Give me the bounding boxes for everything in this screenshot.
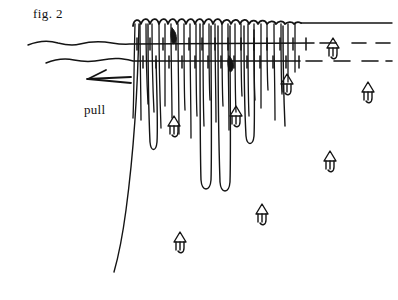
lower-horizontal-line	[46, 58, 392, 63]
flow-marker-6	[324, 151, 336, 172]
flow-marker-8	[174, 232, 186, 253]
figure-canvas: fig. 2 pull	[0, 0, 398, 300]
flow-marker-5	[362, 82, 374, 103]
pull-arrow	[87, 70, 131, 83]
flow-marker-1	[168, 116, 180, 137]
fringe-top-edge	[133, 19, 392, 26]
flow-marker-4	[327, 38, 339, 59]
flow-markers	[168, 38, 374, 253]
flow-marker-7	[256, 204, 268, 225]
figure-caption: fig. 2	[33, 7, 63, 20]
pull-label: pull	[84, 103, 105, 116]
figure-drawing	[0, 0, 398, 300]
